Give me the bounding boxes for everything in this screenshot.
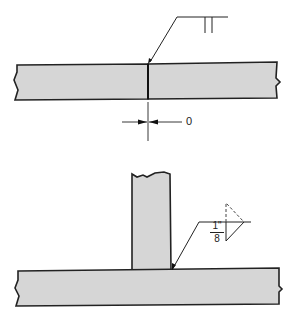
dimension-arrow-icon (149, 120, 158, 125)
left-plate (14, 64, 148, 100)
fillet-size-numerator: 1" (210, 221, 224, 231)
top-plates (14, 62, 280, 100)
square-groove-weld-symbol (148, 17, 228, 64)
root-opening-dimension (122, 102, 182, 141)
bottom-t-joint (15, 172, 282, 306)
weld-drawing (0, 0, 291, 322)
leader-line (150, 17, 228, 62)
fillet-triangle-arrow-side (226, 222, 244, 241)
fillet-triangle-other-side (226, 203, 244, 222)
base-plate (15, 268, 282, 306)
dimension-arrow-icon (138, 120, 147, 125)
right-plate (148, 62, 280, 99)
root-opening-label: 0 (186, 116, 192, 127)
fillet-size-label: 1" 8 (210, 221, 224, 244)
vertical-member (132, 172, 171, 270)
fillet-size-denominator: 8 (210, 234, 224, 244)
